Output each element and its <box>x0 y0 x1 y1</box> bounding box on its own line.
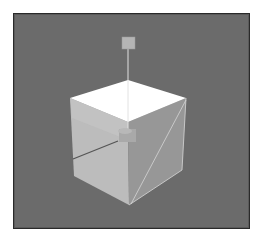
scene-canvas[interactable] <box>0 0 265 243</box>
gizmo-handle-y[interactable] <box>122 37 135 49</box>
gizmo-handle-center-top <box>118 128 132 134</box>
